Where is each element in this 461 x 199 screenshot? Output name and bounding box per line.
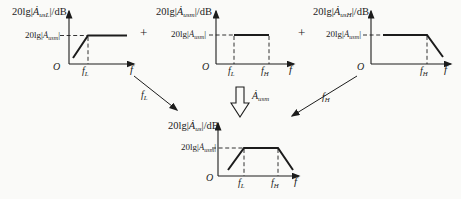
combined-plot-ylabel: 20lg|Ȧus|/dB: [168, 121, 219, 132]
combined-plot-curve: [228, 148, 293, 170]
figure-lines: [0, 0, 461, 199]
mid-plot-fH-tick: fH: [261, 66, 269, 76]
fh-arrow-label: fH: [322, 92, 330, 102]
label-prefix: 20lg|: [326, 29, 344, 39]
label-subscript: usm: [204, 147, 214, 153]
low-plot-curve: [73, 36, 127, 59]
mid-plot-fL-tick: fL: [228, 66, 235, 76]
mid-plot-origin: O: [202, 62, 209, 72]
label-suffix: |/dB: [352, 6, 369, 17]
fl-arrow-label: fL: [141, 90, 148, 100]
combined-plot: [212, 123, 299, 176]
label-subscript: usm: [258, 95, 269, 102]
high-plot-curve: [383, 35, 443, 57]
low-plot: [60, 11, 134, 64]
combined-plot-fL-tick: fL: [238, 178, 245, 188]
tick-subscript: H: [264, 70, 269, 77]
tick-subscript: H: [274, 182, 279, 189]
label-prefix: 20lg|: [313, 6, 334, 17]
mid-arrow-label: Ȧusm: [252, 91, 269, 101]
label-subscript: usm: [48, 35, 58, 41]
label-suffix: |/dB: [195, 6, 212, 17]
low-plot-fL-tick: fL: [82, 66, 89, 76]
combined-plot-fH-tick: fH: [271, 178, 279, 188]
combined-plot-origin: O: [206, 173, 213, 183]
label-prefix: 20lg|: [168, 120, 189, 131]
tick-subscript: H: [423, 70, 428, 77]
high-plot-fH-tick: fH: [420, 66, 428, 76]
combined-plot-x-label: f: [294, 176, 297, 187]
label-suffix: |/dB: [202, 120, 219, 131]
high-plot-level-label: 20lg|Ȧusm|: [326, 30, 361, 39]
label-suffix: |: [359, 29, 361, 39]
high-plot-ylabel: 20lg|ȦusH|/dB: [313, 7, 369, 18]
down-block-arrow: [231, 87, 249, 117]
label-suffix: |: [214, 142, 216, 152]
plus-operator-right: +: [298, 26, 305, 39]
tick-subscript: L: [231, 70, 235, 77]
label-prefix: 20lg|: [181, 142, 199, 152]
low-plot-ylabel: 20lg|ȦusL|/dB: [12, 7, 67, 18]
combined-plot-level-label: 20lg|Ȧusm|: [181, 143, 216, 152]
label-subscript: usH: [340, 11, 351, 19]
label-prefix: 20lg|: [12, 6, 33, 17]
label-subscript: usm: [349, 34, 359, 40]
mid-plot-ylabel: 20lg|Ȧusm|/dB: [156, 7, 212, 18]
label-suffix: |/dB: [50, 6, 67, 17]
mid-plot: [209, 11, 294, 64]
plus-operator-left: +: [140, 26, 147, 39]
high-plot: [363, 11, 451, 64]
tick-subscript: L: [144, 94, 148, 101]
mid-plot-x-label: f: [289, 64, 292, 75]
tick-subscript: L: [85, 70, 89, 77]
label-prefix: 20lg|: [156, 6, 177, 17]
label-suffix: |: [58, 30, 60, 40]
label-subscript: usL: [39, 11, 49, 19]
high-plot-x-label: f: [444, 64, 447, 75]
low-plot-level-label: 20lg|Ȧusm|: [25, 31, 60, 40]
label-prefix: 20lg|: [171, 29, 189, 39]
low-plot-x-label: f: [130, 64, 133, 75]
mid-plot-level-label: 20lg|Ȧusm|: [171, 30, 206, 39]
label-prefix: 20lg|: [25, 30, 43, 40]
bode-decomposition-figure: 20lg|ȦusL|/dB 20lg|Ȧusm| O fL f + 20lg|Ȧ…: [0, 0, 461, 199]
tick-subscript: H: [325, 96, 330, 103]
low-plot-origin: O: [53, 62, 60, 72]
tick-subscript: L: [241, 182, 245, 189]
high-plot-origin: O: [357, 62, 364, 72]
label-subscript: usm: [183, 11, 194, 19]
label-subscript: usm: [194, 34, 204, 40]
label-suffix: |: [204, 29, 206, 39]
